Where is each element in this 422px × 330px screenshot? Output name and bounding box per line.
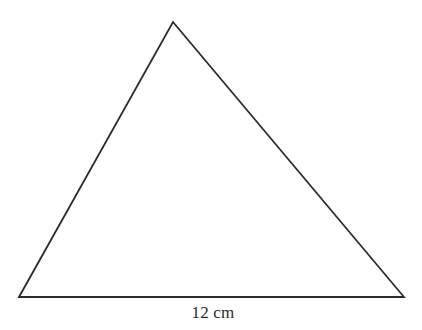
triangle-svg <box>0 0 422 330</box>
figure-background <box>0 0 422 330</box>
geometry-figure: 12 cm <box>0 0 422 330</box>
base-length-label: 12 cm <box>2 303 422 323</box>
